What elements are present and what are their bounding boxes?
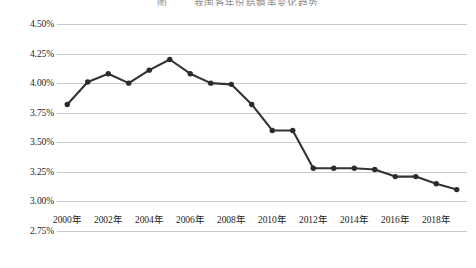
data-point-marker (167, 57, 172, 62)
data-point-marker (434, 181, 439, 186)
chart-title-text: 我国各年份结婚率变化趋势 (194, 0, 319, 6)
data-point-marker (352, 166, 357, 171)
x-axis-tick-label: 2000年 (53, 212, 82, 226)
data-point-marker (413, 174, 418, 179)
data-point-marker (229, 82, 234, 87)
data-point-marker (85, 79, 90, 84)
x-axis-tick-label: 2004年 (135, 212, 164, 226)
series-line (67, 59, 457, 189)
plot-area (57, 24, 467, 231)
data-point-marker (249, 102, 254, 107)
y-axis-tick-label: 4.00% (0, 78, 54, 88)
data-point-marker (65, 102, 70, 107)
y-axis-tick-label: 3.25% (0, 167, 54, 177)
x-axis-tick-label: 2008年 (217, 212, 246, 226)
data-point-marker (106, 71, 111, 76)
data-point-marker (188, 71, 193, 76)
chart-container: 图我国各年份结婚率变化趋势 4.50%4.25%4.00%3.75%3.50%3… (0, 0, 476, 268)
y-axis-tick-label: 4.25% (0, 49, 54, 59)
data-point-marker (126, 80, 131, 85)
y-axis-tick-label: 2.75% (0, 226, 54, 236)
chart-title: 图我国各年份结婚率变化趋势 (0, 0, 476, 6)
data-point-marker (270, 128, 275, 133)
x-axis-tick-label: 2002年 (94, 212, 123, 226)
y-axis-tick-label: 4.50% (0, 19, 54, 29)
x-axis-tick-label: 2006年 (176, 212, 205, 226)
x-axis-tick-label: 2018年 (422, 212, 451, 226)
x-axis-tick-label: 2014年 (340, 212, 369, 226)
data-point-marker (147, 67, 152, 72)
x-axis-tick-label: 2016年 (381, 212, 410, 226)
data-point-marker (290, 128, 295, 133)
chart-title-number: 图 (157, 0, 167, 6)
y-axis-tick-label: 3.00% (0, 196, 54, 206)
data-point-marker (454, 187, 459, 192)
data-point-marker (311, 166, 316, 171)
data-point-marker (208, 80, 213, 85)
y-axis-tick-label: 3.50% (0, 137, 54, 147)
data-point-marker (372, 167, 377, 172)
x-axis-tick-label: 2012年 (299, 212, 328, 226)
line-series (57, 24, 467, 231)
y-axis-tick-label: 3.75% (0, 108, 54, 118)
data-point-marker (331, 166, 336, 171)
gridline (57, 231, 467, 232)
data-point-marker (393, 174, 398, 179)
x-axis-tick-label: 2010年 (258, 212, 287, 226)
